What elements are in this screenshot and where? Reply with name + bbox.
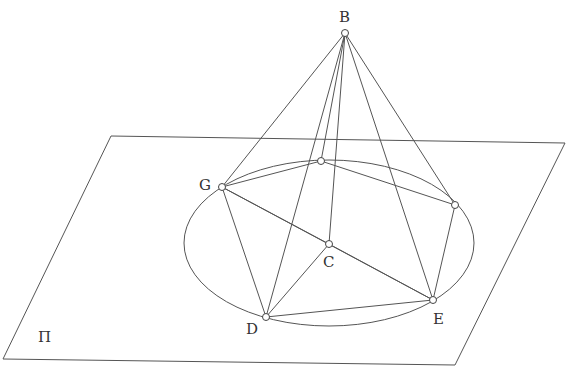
point-d [263,314,270,321]
diagram-canvas: B G C D E Π [0,0,567,378]
point-b [342,30,349,37]
edge-bd [266,33,345,317]
label-d: D [246,320,258,338]
edge-bc [329,33,345,244]
edges-group [222,33,455,317]
label-g: G [199,176,211,194]
points-group [219,30,459,321]
edge-bf [321,33,345,161]
label-plane: Π [38,328,51,346]
point-g [219,184,226,191]
edge-dc [266,244,329,317]
point-e [430,297,437,304]
edge-bh [345,33,455,205]
point-f [318,158,325,165]
label-e: E [433,310,444,328]
point-h [452,202,459,209]
label-c: C [323,253,334,271]
point-c [326,241,333,248]
edge-ed [266,300,433,317]
edge-he [433,205,455,300]
label-b: B [339,8,350,26]
geometry-figure: B G C D E Π [0,0,567,378]
